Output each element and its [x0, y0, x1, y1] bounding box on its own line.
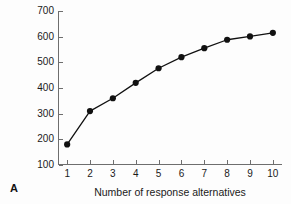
x-tick-label: 10 — [263, 169, 283, 179]
x-axis-title: Number of response alternatives — [58, 186, 282, 198]
data-series-line — [58, 11, 282, 165]
data-point — [247, 33, 253, 39]
y-axis-tick-labels: 100200300400500600700 — [24, 11, 54, 165]
panel-label: A — [10, 182, 18, 194]
x-tick-label: 7 — [194, 169, 214, 179]
data-point — [110, 95, 116, 101]
x-tick-label: 1 — [57, 169, 77, 179]
figure-panel: 100200300400500600700 12345678910 Choice… — [0, 0, 291, 204]
x-tick-label: 6 — [171, 169, 191, 179]
x-tick-label: 8 — [217, 169, 237, 179]
data-point — [64, 141, 70, 147]
series-markers — [64, 30, 276, 148]
data-point — [133, 80, 139, 86]
y-tick-label: 100 — [37, 160, 54, 170]
data-point — [201, 45, 207, 51]
data-point — [270, 30, 276, 36]
y-tick-label: 300 — [37, 109, 54, 119]
x-tick-label: 5 — [149, 169, 169, 179]
y-tick-label: 600 — [37, 32, 54, 42]
y-tick-label: 500 — [37, 57, 54, 67]
data-point — [178, 54, 184, 60]
series-polyline — [67, 33, 273, 145]
y-tick-label: 400 — [37, 83, 54, 93]
plot-area: 100200300400500600700 12345678910 — [58, 11, 282, 165]
x-tick-label: 9 — [240, 169, 260, 179]
data-point — [224, 37, 230, 43]
x-tick-label: 2 — [80, 169, 100, 179]
y-tick-label: 700 — [37, 6, 54, 16]
data-point — [155, 65, 161, 71]
data-point — [87, 108, 93, 114]
y-tick-label: 200 — [37, 134, 54, 144]
y-tick — [59, 165, 63, 166]
x-tick-label: 3 — [103, 169, 123, 179]
x-tick-label: 4 — [126, 169, 146, 179]
